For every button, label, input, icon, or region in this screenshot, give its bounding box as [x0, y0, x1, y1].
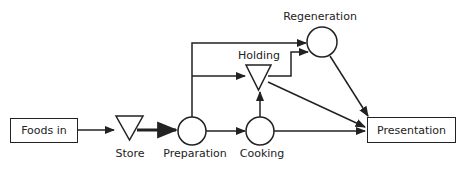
- holding-node: [246, 65, 271, 90]
- store-node: [116, 116, 143, 140]
- regeneration-node: [307, 27, 337, 57]
- cooking-label: Cooking: [240, 147, 285, 160]
- diagram-edges: [0, 0, 465, 170]
- store-label: Store: [115, 147, 144, 160]
- foods-in-label: Foods in: [21, 124, 67, 137]
- regeneration-label: Regeneration: [283, 10, 357, 23]
- holding-label: Holding: [238, 49, 280, 62]
- preparation-node: [178, 117, 206, 145]
- foods-in-box: Foods in: [10, 118, 78, 143]
- presentation-label: Presentation: [377, 124, 446, 137]
- cooking-node: [246, 117, 274, 145]
- edge-regeneration-presentation: [330, 56, 368, 116]
- flow-diagram: Foods in Presentation Store Preparation …: [0, 0, 465, 170]
- preparation-label: Preparation: [163, 147, 227, 160]
- presentation-box: Presentation: [367, 117, 456, 143]
